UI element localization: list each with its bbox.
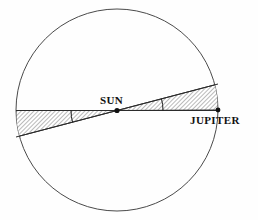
- jupiter-marker-dot: [216, 108, 221, 113]
- diagram-canvas: SUN JUPITER: [0, 0, 258, 220]
- astronomy-diagram-figure: SUN JUPITER: [0, 0, 258, 220]
- sun-marker-dot: [114, 108, 119, 113]
- jupiter-label: JUPITER: [190, 114, 241, 126]
- sun-label: SUN: [100, 94, 123, 106]
